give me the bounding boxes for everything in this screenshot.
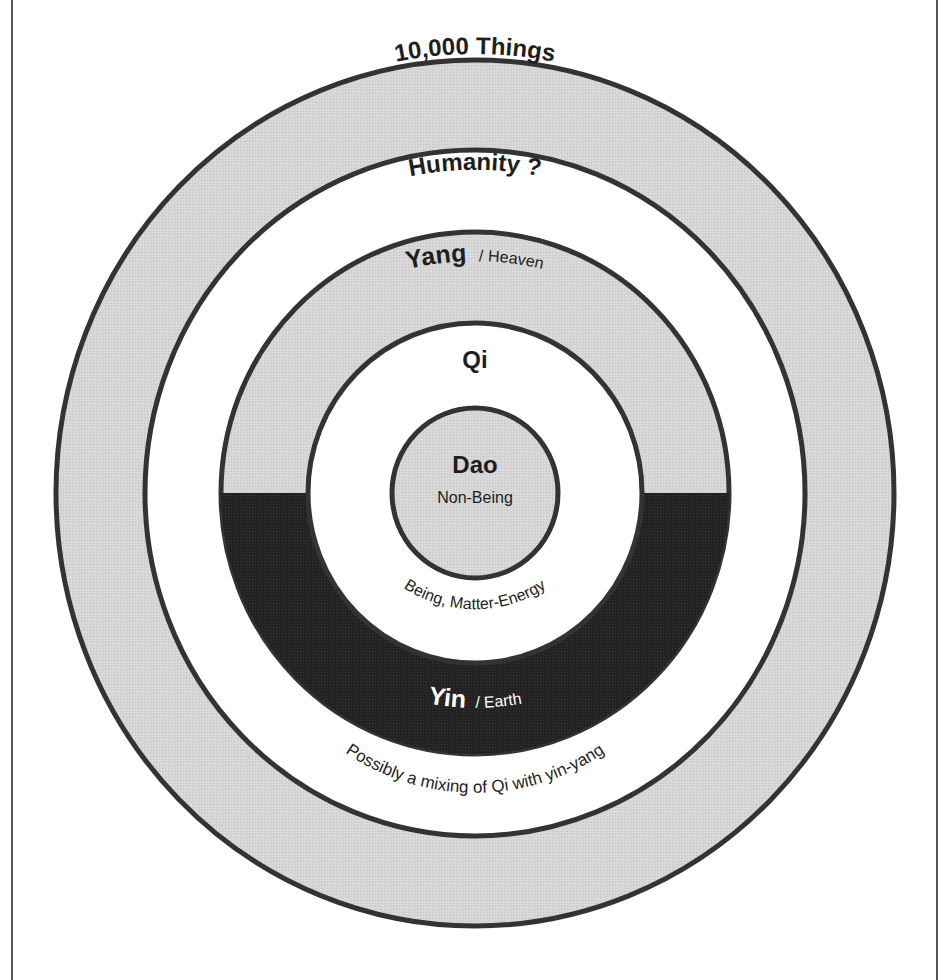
cosmology-diagram: 10,000 Things Humanity ? Yang / Heaven Q…	[0, 0, 950, 980]
dao-label: Dao	[452, 451, 497, 478]
qi-label: Qi	[462, 346, 487, 373]
non-being-label: Non-Being	[437, 489, 513, 506]
yin-label: Yin	[427, 681, 467, 713]
